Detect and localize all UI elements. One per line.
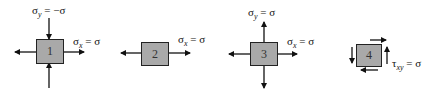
element-3-sigma-y-label: σy = σ xyxy=(248,7,275,21)
stress-states-diagram: 1 σy = −σ σx = σ 2 σx = σ 3 σy = σ σx = … xyxy=(0,0,432,92)
element-4-tau-xy-label: τxy = σ xyxy=(392,58,421,72)
element-1-box: 1 xyxy=(36,39,64,64)
element-2-label: 2 xyxy=(152,47,158,62)
element-3-box: 3 xyxy=(250,42,278,66)
element-1-sigma-x-label: σx = σ xyxy=(73,36,100,50)
element-4-label: 4 xyxy=(366,48,372,63)
element-2-sigma-x-label: σx = σ xyxy=(178,34,205,48)
element-2-box: 2 xyxy=(141,42,169,66)
element-1-sigma-y-label: σy = −σ xyxy=(32,5,65,19)
element-4-box: 4 xyxy=(356,44,382,67)
element-1-label: 1 xyxy=(47,44,53,59)
element-3-sigma-x-label: σx = σ xyxy=(287,36,314,50)
element-3-label: 3 xyxy=(261,47,267,62)
